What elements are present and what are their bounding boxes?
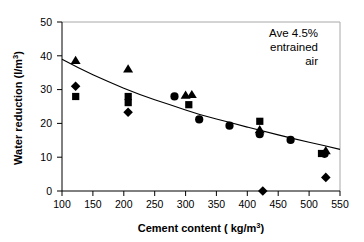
y-tick-label: 40 (40, 50, 52, 62)
y-axis-title-main: Water reduction (l/m (12, 59, 24, 165)
y-tick-label: 20 (40, 117, 52, 129)
data-point-circle (287, 136, 295, 144)
y-axis-title-close: ) (12, 51, 24, 55)
x-tick-label: 250 (146, 198, 164, 210)
x-tick-label: 150 (84, 198, 102, 210)
annotation-line-1: Ave 4.5% (269, 27, 318, 39)
data-point-circle (225, 122, 233, 130)
x-axis-tick-labels: 100 150 200 250 300 350 400 450 500 550 (53, 198, 349, 210)
x-tick-label: 400 (239, 198, 257, 210)
data-point-diamond (258, 186, 268, 196)
annotation-line-2: entrained (270, 41, 318, 53)
x-tick-label: 300 (177, 198, 195, 210)
y-axis-tick-labels: 0 10 20 30 40 50 (40, 16, 52, 197)
data-point-circle (256, 130, 264, 138)
data-point-square (72, 93, 79, 100)
x-axis-title-main: Cement content ( kg/m (138, 222, 257, 234)
chart-figure: 0 10 20 30 40 50 100 150 200 250 300 (0, 0, 364, 242)
y-tick-label: 50 (40, 16, 52, 28)
data-point-diamond (123, 107, 133, 117)
x-tick-label: 350 (208, 198, 226, 210)
x-tick-label: 500 (300, 198, 318, 210)
x-tick-label: 450 (269, 198, 287, 210)
x-axis-title: Cement content ( kg/m3) (138, 221, 265, 234)
y-axis-ticks (57, 22, 62, 191)
data-point-square (125, 99, 132, 106)
y-axis-title: Water reduction (l/m3) (11, 51, 24, 165)
x-tick-label: 550 (331, 198, 349, 210)
data-point-square (256, 118, 263, 125)
data-point-triangle (71, 56, 81, 64)
data-point-diamond (71, 81, 81, 91)
data-point-circle (170, 92, 178, 100)
annotation-block: Ave 4.5% entrained air (269, 27, 318, 67)
x-axis-ticks (62, 191, 340, 196)
y-tick-label: 10 (40, 151, 52, 163)
data-point-diamond (321, 173, 331, 183)
x-axis-title-close: ) (261, 222, 265, 234)
data-point-triangle (123, 64, 133, 72)
data-point-circle (195, 115, 203, 123)
y-tick-label: 0 (46, 185, 52, 197)
annotation-line-3: air (305, 55, 318, 67)
x-tick-label: 100 (53, 198, 71, 210)
data-point-square (185, 101, 192, 108)
trend-curve (62, 59, 340, 149)
scatter-chart: 0 10 20 30 40 50 100 150 200 250 300 (0, 0, 364, 242)
series-circle-markers (170, 92, 328, 158)
x-tick-label: 200 (115, 198, 133, 210)
data-point-triangle (187, 90, 197, 98)
data-point-circle (321, 150, 329, 158)
series-square-markers (72, 93, 325, 157)
y-tick-label: 30 (40, 83, 52, 95)
